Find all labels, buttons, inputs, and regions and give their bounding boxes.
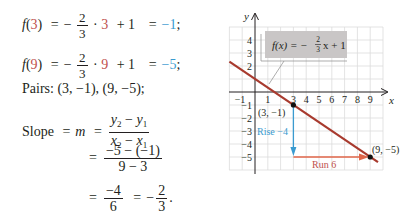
svg-text:f(x) = −: f(x) = −: [272, 39, 308, 52]
function-label-denominator: 3: [316, 45, 320, 54]
function-label-lhs: f(x) = −: [272, 39, 308, 52]
y-tick: −1: [241, 100, 252, 111]
x-tick: 8: [355, 94, 360, 105]
y-tick: −5: [241, 152, 252, 163]
y-tick: −4: [241, 139, 252, 150]
leader-line: [269, 61, 284, 84]
x-tick: 4: [304, 94, 309, 105]
function-label-box: f(x) = − 2 3 x + 1: [261, 31, 347, 84]
y-axis-label: y: [243, 10, 249, 22]
rise-label: Rise −4: [257, 126, 288, 137]
function-label-numerator: 2: [316, 35, 320, 44]
y-tick: 3: [247, 48, 252, 59]
rise-arrowhead-icon: [290, 147, 296, 156]
point-9-neg5: [368, 154, 373, 159]
y-tick: −3: [241, 126, 252, 137]
x-tick: 9: [368, 94, 373, 105]
graph: x y −1 1 3 4 5 6 7 8 9 4 3 2 −1 −2 −3 −4…: [0, 0, 419, 220]
y-tick: 4: [247, 35, 252, 46]
run-label: Run 6: [312, 159, 336, 170]
x-tick: 5: [317, 94, 322, 105]
point-3-neg1: [291, 102, 296, 107]
point1-label: (3, −1): [258, 107, 285, 119]
x-tick: 6: [329, 94, 334, 105]
x-tick: 7: [342, 94, 347, 105]
y-tick: 2: [247, 61, 252, 72]
x-axis-label: x: [388, 94, 394, 106]
y-tick: −2: [241, 113, 252, 124]
function-label-rhs: x + 1: [323, 39, 346, 51]
x-tick: 1: [265, 94, 270, 105]
point2-label: (9, −5): [372, 144, 399, 156]
